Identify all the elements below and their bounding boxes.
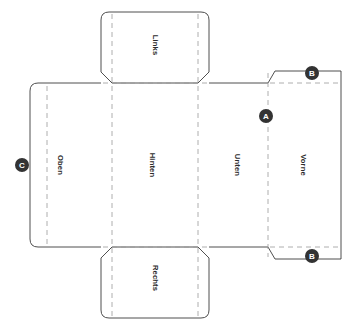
marker-b-bottom-label: B bbox=[309, 252, 315, 261]
panel-label-rechts: Rechts bbox=[151, 265, 160, 291]
marker-b-top: B bbox=[305, 66, 319, 80]
panel-fills bbox=[30, 12, 341, 318]
panel-label-oben: Oben bbox=[56, 155, 65, 175]
marker-a-label: A bbox=[263, 112, 269, 121]
marker-c-label: C bbox=[19, 161, 25, 170]
carton-dieline-diagram: Links Oben Hinten Unten Vorne Rechts B A… bbox=[0, 0, 363, 329]
marker-a: A bbox=[259, 109, 273, 123]
panel-fill-vorne-bottom-flap bbox=[268, 247, 341, 259]
marker-c: C bbox=[15, 158, 29, 172]
marker-b-bottom: B bbox=[305, 249, 319, 263]
panel-label-hinten: Hinten bbox=[148, 153, 157, 178]
panel-fill-glueflap bbox=[30, 91, 47, 239]
panel-label-links: Links bbox=[151, 35, 160, 56]
panel-label-unten: Unten bbox=[233, 154, 242, 176]
marker-b-top-label: B bbox=[309, 69, 315, 78]
panel-fill-unten bbox=[198, 83, 268, 247]
panel-fill-vorne-top-flap bbox=[268, 71, 341, 83]
panel-label-vorne: Vorne bbox=[299, 154, 308, 176]
